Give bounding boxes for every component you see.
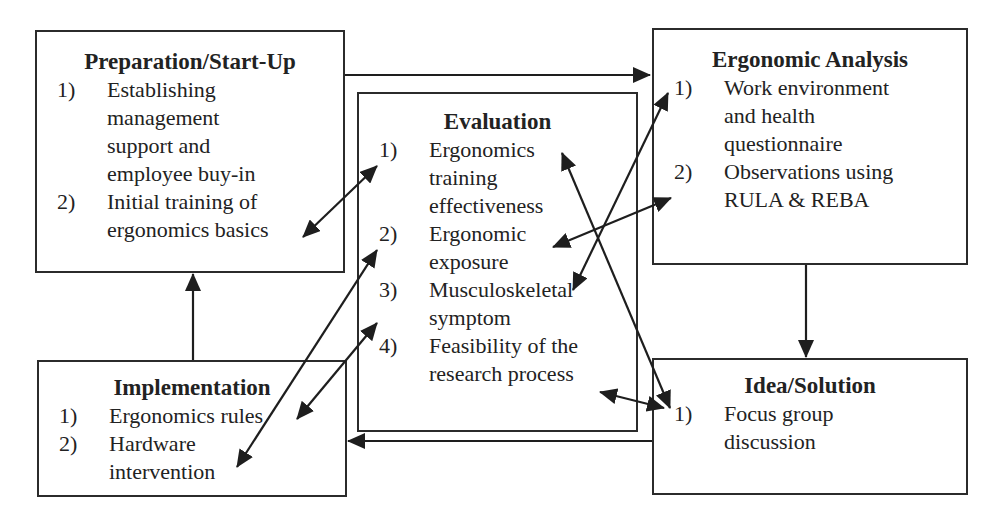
analysis-list: 1)Work environment and health questionna… (674, 74, 966, 214)
preparation-box: Preparation/Start-Up 1)Establishing mana… (35, 30, 345, 273)
list-item: 2)Initial training of ergonomics basics (57, 188, 343, 244)
item-text: Focus group discussion (724, 400, 966, 456)
list-item: 1)Ergonomics training effectiveness (379, 136, 636, 220)
list-item: 1)Ergonomics rules (59, 402, 345, 430)
item-number: 1) (379, 136, 429, 220)
item-number: 2) (379, 220, 429, 276)
item-number: 1) (57, 76, 107, 188)
implementation-list: 1)Ergonomics rules 2)Hardware interventi… (59, 402, 345, 486)
item-text: Ergonomics rules (109, 402, 345, 430)
evaluation-list: 1)Ergonomics training effectiveness 2)Er… (379, 136, 636, 388)
item-number: 3) (379, 276, 429, 332)
item-number: 2) (674, 158, 724, 214)
list-item: 1)Focus group discussion (674, 400, 966, 456)
item-text: Musculoskeletal symptom (429, 276, 636, 332)
item-number: 1) (59, 402, 109, 430)
item-text: Ergonomics training effectiveness (429, 136, 636, 220)
item-number: 2) (59, 430, 109, 486)
list-item: 4)Feasibility of the research process (379, 332, 636, 388)
item-text: Feasibility of the research process (429, 332, 636, 388)
list-item: 1)Establishing management support and em… (57, 76, 343, 188)
list-item: 2)Ergonomic exposure (379, 220, 636, 276)
implementation-box: Implementation 1)Ergonomics rules 2)Hard… (37, 360, 347, 497)
item-number: 4) (379, 332, 429, 388)
solution-list: 1)Focus group discussion (674, 400, 966, 456)
item-number: 1) (674, 74, 724, 158)
list-item: 1)Work environment and health questionna… (674, 74, 966, 158)
list-item: 3)Musculoskeletal symptom (379, 276, 636, 332)
preparation-list: 1)Establishing management support and em… (57, 76, 343, 244)
analysis-box: Ergonomic Analysis 1)Work environment an… (652, 28, 968, 265)
analysis-title: Ergonomic Analysis (654, 46, 966, 74)
evaluation-title: Evaluation (359, 108, 636, 136)
solution-box: Idea/Solution 1)Focus group discussion (652, 358, 968, 495)
item-text: Observations using RULA & REBA (724, 158, 966, 214)
item-text: Work environment and health questionnair… (724, 74, 966, 158)
implementation-title: Implementation (39, 374, 345, 402)
item-text: Establishing management support and empl… (107, 76, 343, 188)
list-item: 2)Observations using RULA & REBA (674, 158, 966, 214)
item-text: Ergonomic exposure (429, 220, 636, 276)
evaluation-box: Evaluation 1)Ergonomics training effecti… (357, 92, 638, 432)
list-item: 2)Hardware intervention (59, 430, 345, 486)
item-number: 1) (674, 400, 724, 456)
item-number: 2) (57, 188, 107, 244)
solution-title: Idea/Solution (654, 372, 966, 400)
item-text: Hardware intervention (109, 430, 345, 486)
preparation-title: Preparation/Start-Up (37, 48, 343, 76)
item-text: Initial training of ergonomics basics (107, 188, 343, 244)
